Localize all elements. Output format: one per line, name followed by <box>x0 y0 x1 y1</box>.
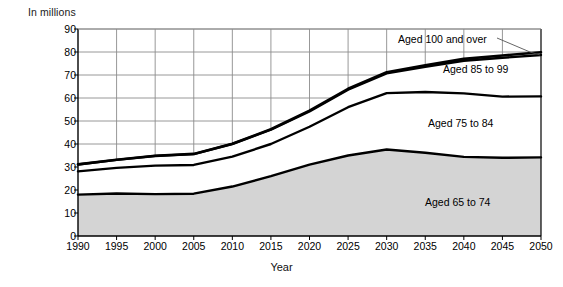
x-tick-label: 2035 <box>414 240 437 252</box>
x-tick-label: 2015 <box>259 240 282 252</box>
series-label-aged-85-to-99: Aged 85 to 99 <box>443 63 508 75</box>
x-axis-tick-labels: 1990199520002005201020152020202520302035… <box>0 240 563 256</box>
series-label-aged-65-to-74: Aged 65 to 74 <box>425 196 490 208</box>
x-tick-label: 2010 <box>221 240 244 252</box>
x-tick-label: 1990 <box>66 240 89 252</box>
y-tick-label: 20 <box>50 184 76 196</box>
y-tick-label: 50 <box>50 115 76 127</box>
y-tick-label: 90 <box>50 23 76 35</box>
x-tick-label: 2040 <box>452 240 475 252</box>
x-tick-label: 2005 <box>182 240 205 252</box>
y-tick-label: 70 <box>50 69 76 81</box>
x-tick-label: 2050 <box>529 240 552 252</box>
x-tick-label: 2020 <box>298 240 321 252</box>
chart-figure: In millions 0102030405060708090 19901995… <box>0 0 563 287</box>
clipped-caption <box>30 279 290 287</box>
x-tick-label: 2000 <box>143 240 166 252</box>
x-tick-label: 2045 <box>491 240 514 252</box>
x-axis-title: Year <box>0 261 563 273</box>
x-tick-label: 2025 <box>336 240 359 252</box>
x-tick-label: 1995 <box>105 240 128 252</box>
y-tick-label: 60 <box>50 92 76 104</box>
series-label-aged-100-and-over: Aged 100 and over <box>398 33 487 45</box>
series-label-aged-75-to-84: Aged 75 to 84 <box>428 117 493 129</box>
x-tick-label: 2030 <box>375 240 398 252</box>
y-tick-label: 10 <box>50 207 76 219</box>
y-tick-label: 30 <box>50 161 76 173</box>
y-tick-label: 40 <box>50 138 76 150</box>
y-tick-label: 80 <box>50 46 76 58</box>
